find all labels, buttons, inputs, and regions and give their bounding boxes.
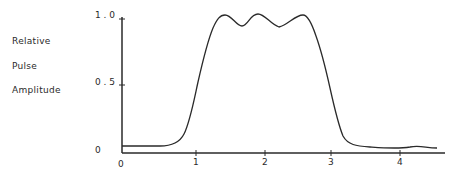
plot-area — [0, 0, 457, 174]
pulse-curve — [122, 14, 437, 148]
